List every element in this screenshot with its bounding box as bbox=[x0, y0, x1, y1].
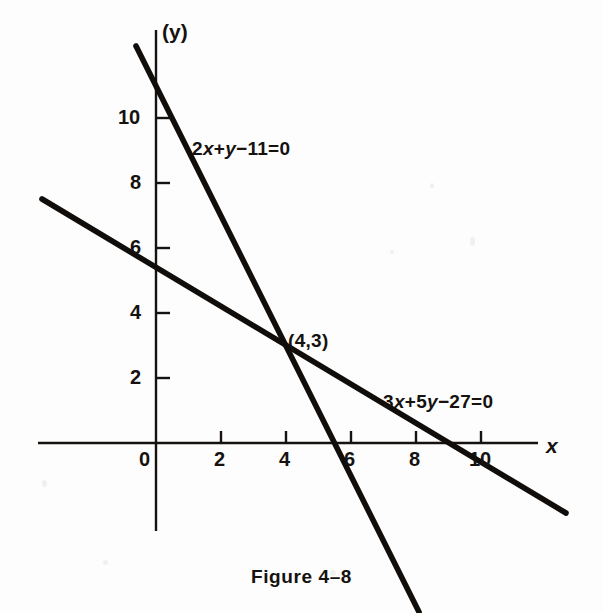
x-axis-label: x bbox=[546, 434, 558, 458]
y-tick-label-8: 8 bbox=[130, 171, 141, 194]
x-tick-label-6: 6 bbox=[344, 448, 355, 471]
equation-label-line2: 3x+5y−27=0 bbox=[383, 391, 493, 413]
equation-line2-y: y bbox=[427, 391, 438, 412]
y-tick-label-4: 4 bbox=[130, 301, 141, 324]
y-tick-label-6: 6 bbox=[130, 236, 141, 259]
y-tick-label-2: 2 bbox=[130, 366, 141, 389]
intersection-point-label: (4,3) bbox=[288, 330, 329, 352]
equation-line2-operator: +5 bbox=[405, 391, 427, 412]
y-axis-label: (y) bbox=[162, 20, 188, 44]
equation-line2-coefficient: 3 bbox=[383, 391, 394, 412]
x-tick-label-10: 10 bbox=[469, 448, 491, 471]
equation-line1-tail: −11=0 bbox=[236, 138, 290, 159]
equation-line1-operator: + bbox=[214, 138, 225, 159]
y-tick-label-10: 10 bbox=[118, 106, 140, 129]
x-tick-label-4: 4 bbox=[279, 448, 290, 471]
figure-container: 0 2 4 6 8 10 2 4 6 8 10 (y) x 2x+y−11=0 … bbox=[0, 0, 603, 613]
equation-line2-x: x bbox=[394, 391, 405, 412]
coordinate-plot bbox=[0, 0, 603, 613]
line-2x-plus-y-minus-11 bbox=[136, 46, 419, 612]
equation-label-line1: 2x+y−11=0 bbox=[192, 138, 290, 160]
figure-caption: Figure 4–8 bbox=[0, 566, 603, 588]
equation-line2-tail: −27=0 bbox=[438, 391, 493, 412]
equation-line1-coefficient: 2 bbox=[192, 138, 203, 159]
x-tick-label-8: 8 bbox=[409, 448, 420, 471]
equation-line1-x: x bbox=[203, 138, 214, 159]
equation-line1-y: y bbox=[225, 138, 236, 159]
y-axis-ticks bbox=[156, 118, 170, 378]
x-tick-label-2: 2 bbox=[214, 448, 225, 471]
x-tick-label-0: 0 bbox=[139, 448, 150, 471]
